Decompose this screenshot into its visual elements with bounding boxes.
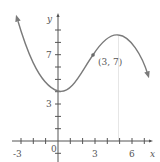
x-tick-label-3: 3 xyxy=(92,149,98,159)
point-label: (3, 7) xyxy=(98,57,122,67)
x-axis xyxy=(12,138,151,144)
y-tick-label-3: 3 xyxy=(46,99,52,109)
x-tick-label-6: 6 xyxy=(129,149,135,159)
y-tick-label-7: 7 xyxy=(46,50,52,60)
point-marker xyxy=(91,53,95,57)
x-axis-label: x xyxy=(150,149,155,159)
y-axis-label: y xyxy=(46,14,53,24)
x-tick-label-0: 0 xyxy=(51,144,57,154)
function-curve xyxy=(17,18,148,91)
y-axis xyxy=(55,15,61,162)
function-graph: (3, 7) y x 7 3 -3 0 3 6 xyxy=(0,0,160,162)
x-tick-label-neg3: -3 xyxy=(13,149,22,159)
